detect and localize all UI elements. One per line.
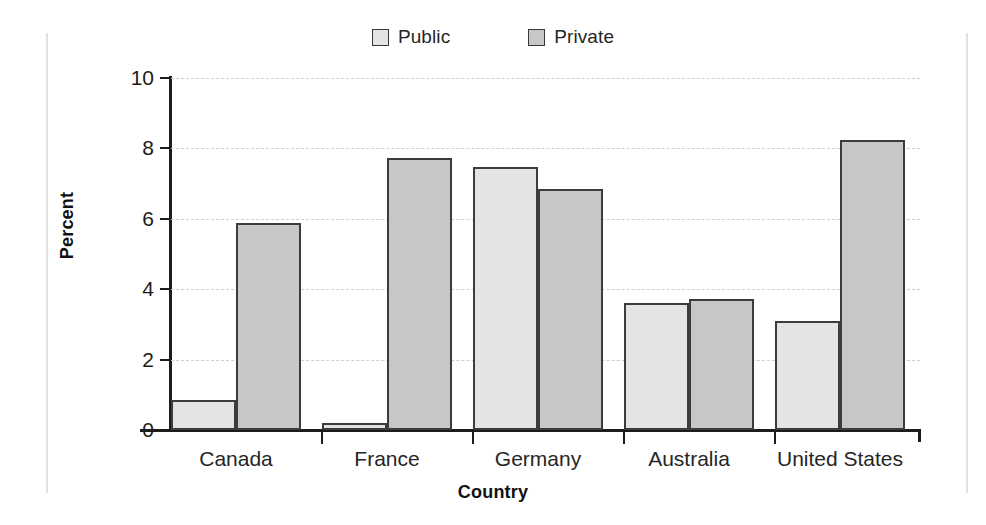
y-tick-mark: [160, 359, 170, 361]
legend-label-private: Private: [554, 26, 614, 48]
bar-germany-public: [473, 167, 538, 430]
x-tick-mark: [774, 431, 776, 444]
x-tick-mark: [472, 431, 474, 444]
x-tick-label-united-states: United States: [777, 447, 903, 471]
y-tick-mark: [160, 429, 170, 431]
y-tick-label: 0: [110, 418, 154, 442]
y-tick-mark: [160, 147, 170, 149]
bar-canada-private: [236, 223, 301, 430]
page-margin-rule-right: [966, 33, 968, 493]
bar-france-private: [387, 158, 452, 430]
bar-germany-private: [538, 189, 603, 430]
gridline: [171, 78, 920, 79]
chart-legend: Public Private: [0, 26, 986, 48]
x-axis-title: Country: [0, 482, 986, 503]
x-tick-label-australia: Australia: [648, 447, 730, 471]
chart-page: Public Private Percent 0246810 CanadaFra…: [0, 0, 986, 525]
x-tick-label-france: France: [354, 447, 419, 471]
y-axis-title: Percent: [57, 146, 78, 306]
legend-item-public: Public: [372, 26, 450, 48]
bar-united-states-private: [840, 140, 905, 430]
legend-swatch-private-icon: [528, 29, 545, 46]
x-tick-mark: [321, 431, 323, 444]
x-tick-label-germany: Germany: [495, 447, 581, 471]
x-tick-label-canada: Canada: [199, 447, 273, 471]
plot-area: [171, 78, 920, 430]
y-tick-label: 4: [110, 277, 154, 301]
bar-united-states-public: [775, 321, 840, 430]
legend-label-public: Public: [398, 26, 450, 48]
y-tick-label: 6: [110, 207, 154, 231]
bar-france-public: [322, 423, 387, 430]
bar-australia-private: [689, 299, 754, 430]
y-tick-mark: [160, 218, 170, 220]
legend-swatch-public-icon: [372, 29, 389, 46]
x-axis-end-tick: [918, 429, 921, 442]
y-tick-label: 8: [110, 136, 154, 160]
y-tick-label: 2: [110, 348, 154, 372]
y-tick-mark: [160, 77, 170, 79]
page-margin-rule-left: [46, 33, 48, 493]
bar-canada-public: [171, 400, 236, 430]
bar-australia-public: [624, 303, 689, 430]
x-tick-mark: [623, 431, 625, 444]
y-tick-label: 10: [110, 66, 154, 90]
legend-item-private: Private: [528, 26, 614, 48]
gridline: [171, 148, 920, 149]
y-tick-mark: [160, 288, 170, 290]
